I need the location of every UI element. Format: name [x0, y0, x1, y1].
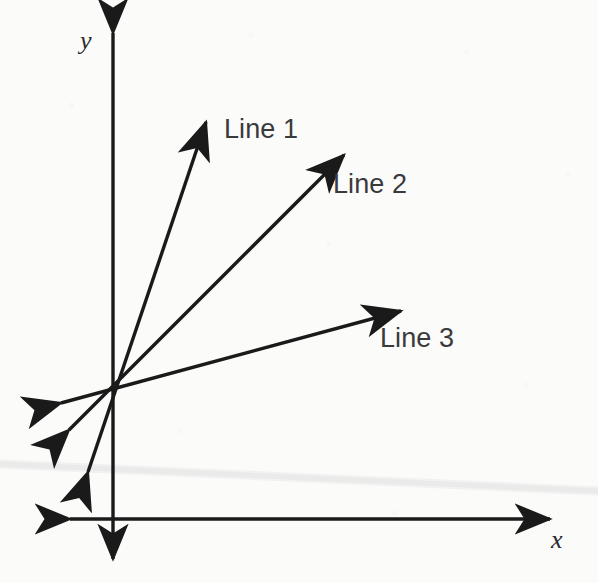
line-1-label: Line 1 [224, 116, 298, 143]
line-2-label: Line 2 [333, 171, 407, 198]
line-1-arrow [88, 122, 206, 472]
coordinate-plane-drawing [0, 0, 598, 583]
x-axis-label: x [551, 527, 563, 553]
line-graph-figure: Line 1 Line 2 Line 3 x y [0, 0, 598, 583]
line-3-label: Line 3 [380, 325, 454, 352]
y-axis-label: y [80, 28, 92, 54]
line-2-arrow [69, 155, 344, 430]
